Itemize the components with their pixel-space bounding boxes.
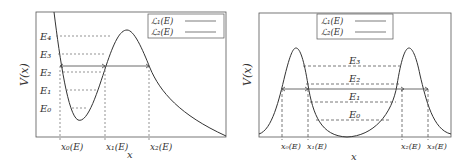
y-axis-label: V(x) bbox=[241, 63, 254, 86]
x-axis-label: x bbox=[127, 149, 133, 160]
turning-point-x3: x₃(E) bbox=[427, 142, 447, 151]
turning-point-x2: x₂(E) bbox=[150, 142, 173, 152]
energy-label-e0: E₀ bbox=[348, 109, 360, 120]
y-axis-label: V(x) bbox=[18, 63, 31, 86]
energy-label-e1: E₁ bbox=[39, 85, 51, 96]
legend: ℒ₁(E) ℒ₂(E) bbox=[148, 14, 224, 38]
left-potential-diagram: E₄ E₃ E₂ E₁ E₀ V(x) x₀(E) x₁(E) x₂(E) x … bbox=[0, 0, 233, 166]
turning-point-x0: x₀(E) bbox=[281, 142, 301, 151]
energy-label-e0: E₀ bbox=[39, 103, 51, 114]
turning-point-x1: x₁(E) bbox=[307, 142, 327, 151]
energy-label-e3: E₃ bbox=[348, 55, 360, 66]
legend-l2: ℒ₂(E) bbox=[151, 27, 173, 37]
turning-point-x2: x₂(E) bbox=[401, 142, 421, 151]
turning-point-x1: x₁(E) bbox=[106, 142, 129, 152]
legend-l2: ℒ₂(E) bbox=[321, 27, 343, 37]
legend-l1: ℒ₁(E) bbox=[321, 16, 343, 26]
energy-label-e4: E₄ bbox=[39, 31, 51, 42]
energy-label-e3: E₃ bbox=[39, 49, 51, 60]
x-axis-label: x bbox=[351, 151, 357, 162]
legend: ℒ₁(E) ℒ₂(E) bbox=[317, 14, 393, 39]
legend-l1: ℒ₁(E) bbox=[151, 16, 173, 26]
right-potential-diagram: E₃ E₂ E₁ E₀ V(x) x₀(E) x₁(E) x₂(E) x₃(E)… bbox=[237, 0, 467, 166]
energy-label-e2: E₂ bbox=[39, 67, 51, 78]
energy-label-e1: E₁ bbox=[348, 91, 360, 102]
turning-point-lines bbox=[60, 66, 149, 142]
turning-point-x0: x₀(E) bbox=[61, 142, 84, 152]
e2-path-lines bbox=[60, 64, 149, 68]
energy-label-e2: E₂ bbox=[348, 73, 360, 84]
